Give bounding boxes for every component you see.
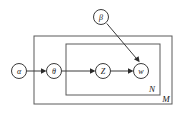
edge-theta-to-z [62,68,96,74]
graphical-model-diagram: M N α [0,0,182,117]
node-theta-label: θ [52,67,56,76]
node-alpha[interactable]: α [12,64,27,79]
edge-beta-to-w [107,24,140,63]
node-w[interactable]: w [134,64,149,79]
edge-alpha-to-theta [27,68,47,74]
arrowhead-icon [90,68,96,74]
arrowhead-icon [41,68,47,74]
arrowhead-icon [128,68,134,74]
node-w-label: w [138,67,144,76]
node-z-label: Z [101,67,106,76]
edge-z-to-w [111,68,134,74]
plate-diagram-container: M N α [0,0,182,117]
plate-m-label: M [161,94,170,104]
node-z[interactable]: Z [96,64,111,79]
plate-n-label: N [148,84,156,94]
node-theta[interactable]: θ [47,64,62,79]
node-beta-label: β [98,13,103,22]
node-beta[interactable]: β [94,10,109,25]
